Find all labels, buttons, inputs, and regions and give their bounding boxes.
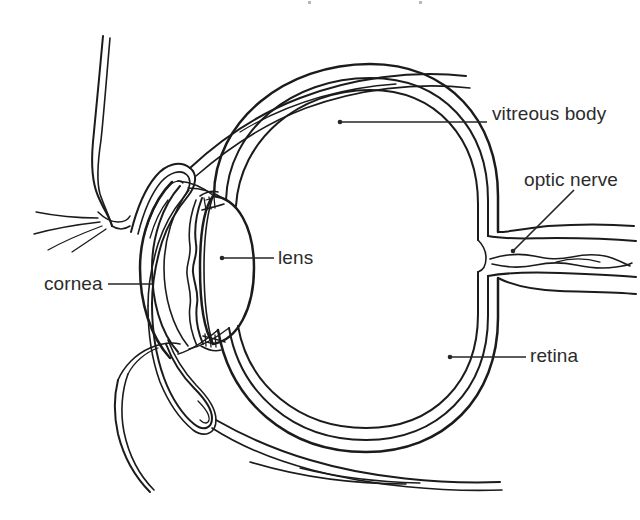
leader-lines [108,120,574,360]
lens-structure [200,196,254,344]
label-cornea: cornea [44,274,103,293]
lower-eyelid [115,343,180,492]
leader-lens [220,256,274,261]
cornea-structure [140,182,189,358]
eye-anatomy-figure: vitreous body optic nerve lens cornea re… [0,0,640,520]
eye-diagram-drawing [0,0,640,520]
eyelashes [34,212,106,252]
label-vitreous-body: vitreous body [492,104,606,123]
leader-retina [448,355,526,360]
label-optic-nerve: optic nerve [524,170,618,189]
optic-nerve-structure [478,225,636,295]
leader-optic-nerve [511,190,574,253]
label-lens: lens [278,248,313,267]
upper-eyelid [92,36,130,229]
upper-orbital-sweeps [190,74,470,176]
orbital-connective-sweeps [212,420,502,490]
retina-layer [236,90,478,428]
central-retinal-vessel [490,254,632,268]
label-retina: retina [530,346,578,365]
